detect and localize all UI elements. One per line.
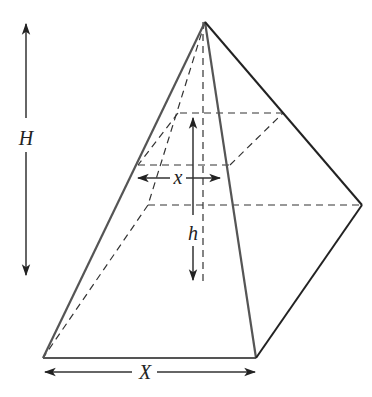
height-H-dimension: H bbox=[18, 24, 35, 275]
cross-section bbox=[138, 113, 283, 165]
width-x-dimension: x bbox=[138, 166, 220, 188]
h-label: h bbox=[188, 222, 198, 244]
width-X-dimension: X bbox=[45, 361, 255, 383]
base-right-edge bbox=[256, 205, 362, 358]
H-label: H bbox=[18, 127, 35, 149]
section-right-edge bbox=[230, 113, 283, 165]
edge-apex-to-front-left bbox=[43, 22, 205, 358]
pyramid-diagram: H h x X bbox=[0, 0, 372, 397]
x-label: x bbox=[173, 166, 183, 188]
hidden-edges bbox=[43, 22, 362, 358]
X-label: X bbox=[138, 361, 152, 383]
hidden-base-left-edge bbox=[43, 205, 148, 358]
height-h-dimension: h bbox=[188, 118, 198, 280]
